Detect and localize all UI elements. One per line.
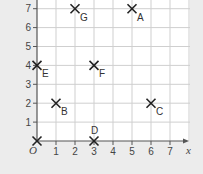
x-tick-label: 2 (72, 146, 78, 157)
point-label: E (42, 68, 49, 79)
y-tick-label: 6 (25, 22, 31, 33)
x-tick-label: 6 (148, 146, 154, 157)
point-label: B (61, 106, 68, 117)
point-label: D (91, 125, 98, 136)
y-tick-label: 1 (25, 117, 31, 128)
y-tick-label: 7 (25, 3, 31, 14)
point-label: A (137, 12, 144, 23)
point-label: C (156, 106, 163, 117)
x-axis-label: x (185, 144, 191, 156)
x-tick-label: 4 (110, 146, 116, 157)
point-label: G (80, 12, 88, 23)
y-tick-label: 5 (25, 41, 31, 52)
y-tick-label: 2 (25, 98, 31, 109)
x-tick-label: 5 (129, 146, 135, 157)
y-tick-label: 4 (25, 60, 31, 71)
x-tick-label: 3 (91, 146, 97, 157)
point-label: F (99, 68, 105, 79)
coordinate-grid-chart: 12345671234567Ox ABCDEFG (0, 0, 203, 174)
x-tick-label: 1 (53, 146, 59, 157)
x-tick-label: 7 (167, 146, 173, 157)
y-tick-label: 3 (25, 79, 31, 90)
